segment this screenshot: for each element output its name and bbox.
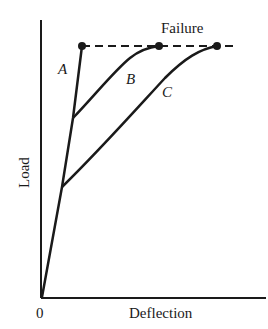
- curve-c-label: C: [162, 84, 173, 100]
- curve-b: [73, 46, 159, 118]
- failure-point-a: [78, 42, 86, 50]
- y-axis-label: Load: [16, 157, 32, 188]
- curve-b-label: B: [126, 71, 135, 87]
- curve-c: [62, 46, 217, 187]
- failure-point-c: [213, 42, 221, 50]
- x-axis-label: Deflection: [129, 305, 193, 321]
- failure-point-b: [155, 42, 163, 50]
- curve-a-label: A: [57, 61, 68, 77]
- failure-label: Failure: [161, 20, 204, 36]
- load-deflection-diagram: Failure A B C 0 Deflection Load: [0, 0, 268, 329]
- origin-label: 0: [36, 305, 44, 321]
- diagram-canvas: Failure A B C 0 Deflection Load: [0, 0, 268, 329]
